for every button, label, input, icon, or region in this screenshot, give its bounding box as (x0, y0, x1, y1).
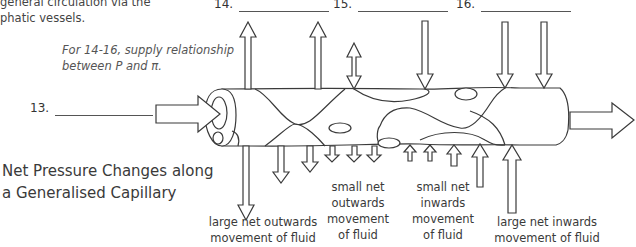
arrow-down-icon (302, 146, 318, 172)
arrow-up-icon (503, 145, 521, 213)
nucleus (329, 123, 351, 133)
arrow-down-icon (238, 146, 254, 220)
lumen-small (213, 132, 223, 144)
arrow-up-icon (447, 145, 461, 166)
capillary-tube (222, 87, 569, 146)
arrow-down-icon (325, 146, 339, 162)
arrow-up-icon (404, 145, 416, 161)
arrow-down-icon (536, 22, 552, 88)
arrow-down-icon (347, 146, 361, 162)
arrow-up-icon (240, 22, 256, 89)
arrow-up-icon (310, 22, 326, 89)
arrow-up-icon (472, 144, 488, 187)
arrow-right-icon (570, 103, 634, 138)
arrow-down-icon (367, 146, 381, 162)
arrow-up-icon (424, 145, 436, 161)
arrow-down-icon (273, 146, 289, 183)
nucleus (455, 88, 477, 100)
capillary-diagram (0, 0, 636, 247)
double-arrow-icon (347, 43, 361, 89)
nucleus (378, 138, 400, 148)
arrow-down-icon (497, 22, 513, 88)
arrow-down-icon (417, 21, 433, 89)
